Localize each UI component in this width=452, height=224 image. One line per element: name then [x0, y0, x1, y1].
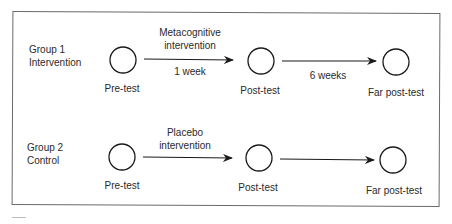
- g2-node-pretest-label: Pre-test: [104, 180, 139, 192]
- g2-arrow-2: [280, 159, 374, 160]
- g1-posttest-node: [248, 48, 274, 74]
- g1-node-farposttest-label: Far post-test: [368, 87, 424, 99]
- g1-pretest-node: [110, 47, 136, 73]
- g2-arrow-1: [143, 157, 232, 158]
- g1-node-posttest-label: Post-test: [240, 85, 279, 97]
- caption-fragment: [12, 217, 26, 222]
- g1-edge1-bottom: 1 week: [174, 66, 206, 78]
- g2-pretest-node: [109, 144, 135, 170]
- g2-label-line2: Control: [27, 155, 59, 167]
- g1-edge1-top-line2: intervention: [164, 40, 216, 52]
- g2-label-line1: Group 2: [27, 142, 63, 154]
- g1-edge2-bottom: 6 weeks: [310, 70, 347, 82]
- g1-edge1-top-line1: Metacognitive: [159, 27, 221, 39]
- g2-node-posttest-label: Post-test: [238, 182, 277, 194]
- g1-farposttest-node: [383, 49, 409, 75]
- g2-node-farposttest-label: Far post-test: [366, 185, 422, 197]
- g2-edge1-top-line2: intervention: [159, 140, 211, 152]
- g1-label-line2: Intervention: [29, 57, 81, 69]
- g1-arrow-1: [144, 59, 233, 60]
- g2-edge1-top-line1: Placebo: [167, 127, 203, 139]
- g1-node-pretest-label: Pre-test: [104, 83, 139, 95]
- g1-label-line1: Group 1: [29, 44, 65, 56]
- g2-farposttest-node: [380, 147, 406, 173]
- g2-posttest-node: [246, 145, 272, 171]
